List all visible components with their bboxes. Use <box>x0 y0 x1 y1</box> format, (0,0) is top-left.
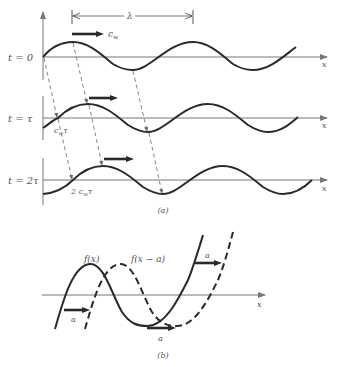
traveling-wave-figure: λ cw t = 0 x t = τ x cwτ <box>0 0 338 367</box>
shift-label-top: a <box>205 251 210 260</box>
shift-label-left: a <box>71 315 76 324</box>
velocity-label: cw <box>108 29 119 40</box>
time-label-t-2tau: t = 2τ <box>8 175 39 186</box>
label-f-x: f(x) <box>83 254 100 264</box>
x-axis-label-b: x <box>257 300 262 309</box>
shift-arrow-left: a <box>64 307 90 324</box>
x-axis-label-t-2tau: x <box>322 184 327 193</box>
row-t-tau: t = τ x cwτ <box>8 95 327 136</box>
caption-b: (b) <box>157 351 168 360</box>
curve-f-x <box>55 235 203 329</box>
shift-label-bottom: a <box>158 334 163 343</box>
wavelength-label: λ <box>126 11 133 21</box>
velocity-arrow: cw <box>72 29 119 40</box>
velocity-arrow-t-2tau <box>126 156 134 162</box>
panel-a: λ cw t = 0 x t = τ x cwτ <box>8 10 327 215</box>
caption-a: (a) <box>157 206 168 215</box>
time-label-t0: t = 0 <box>8 52 34 63</box>
shift-arrow-bottom: a <box>147 325 176 343</box>
panel-b: x f(x) f(x − a) a a a (b) <box>42 232 265 360</box>
row-t0: t = 0 x <box>8 42 327 70</box>
label-f-x-minus-a: f(x − a) <box>130 254 166 264</box>
wavelength-dimension: λ <box>72 10 193 24</box>
wave-t0 <box>43 42 296 70</box>
velocity-arrow-t-tau <box>110 95 118 101</box>
time-label-t-tau: t = τ <box>8 113 33 124</box>
shift-label-t-tau: cwτ <box>54 126 68 136</box>
x-axis-label-t-tau: x <box>322 121 327 130</box>
x-axis-label-t0: x <box>322 60 327 69</box>
shift-label-t-2tau: 2 cwτ <box>70 187 93 197</box>
row-t-2tau: t = 2τ x 2 cwτ <box>8 156 327 197</box>
shift-arrow-top: a <box>195 251 222 266</box>
